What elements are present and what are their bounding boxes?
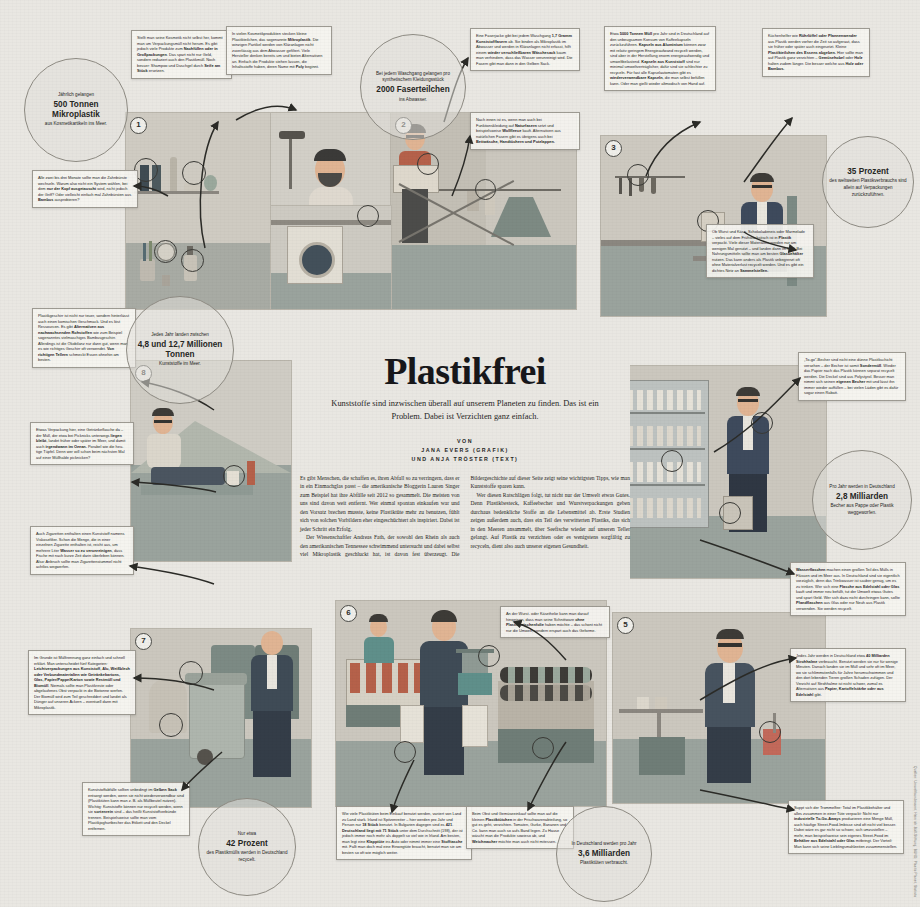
scene-panel-1: 1 xyxy=(125,112,272,310)
fruit-row-2 xyxy=(500,685,592,701)
stat-circle-meer: Jedes Jahr landen zwischen 4,8 und 12,7 … xyxy=(126,296,234,404)
stat-lead: Pro Jahr werden in Deutschland xyxy=(829,484,894,491)
hotspot-mirror[interactable] xyxy=(182,161,206,185)
callout-wurst-kaese: Ob Wurst und Käse, Schokoladeneis oder M… xyxy=(706,224,814,278)
shelf xyxy=(134,191,219,194)
hotspot-utensils[interactable] xyxy=(627,164,649,186)
callout-plastiktueten-einkauf: Wie viele Plastiktüten beim Einkauf benu… xyxy=(336,806,472,860)
picnic-glasses xyxy=(154,420,172,423)
byline: VON JANA EVERS (GRAFIK) UND ANJA TRÖSTER… xyxy=(300,437,630,465)
hotspot-fruit[interactable] xyxy=(532,737,554,759)
callout-mikroplastik-poly: In vielen Kosmetikprodukten stecken klei… xyxy=(226,26,332,75)
stat-circle-tueten: In Deutschland werden pro Jahr 3,6 Milli… xyxy=(556,806,652,902)
small-jar xyxy=(162,275,170,286)
byline-author-2: UND ANJA TRÖSTER (TEXT) xyxy=(300,455,630,464)
person-hair xyxy=(314,149,346,161)
callout-text: Stellt man seine Kosmetik nicht selbst h… xyxy=(137,35,223,73)
cup-b xyxy=(655,697,667,709)
cup-a xyxy=(637,697,649,709)
fruit-row-1 xyxy=(500,667,592,683)
picnic-torso xyxy=(147,434,181,468)
callout-ruehrloeffel: Küchenhelfer wie Rührlöffel oder Pfannen… xyxy=(762,28,870,77)
stat-value: 2,8 Milliarden xyxy=(836,492,888,502)
callout-text: Etwa 5000 Tonnen Müll pro Jahr sind in D… xyxy=(610,31,709,86)
hotspot-brush[interactable] xyxy=(154,240,177,263)
bin-wheel xyxy=(197,749,213,765)
hotspot-bin[interactable] xyxy=(719,502,741,524)
hotspot-line[interactable] xyxy=(475,179,496,200)
person3-hair xyxy=(750,173,774,182)
callout-naturfasern: Nach innen ist es, wenn man auch bei Fun… xyxy=(470,112,580,150)
infographic-page: 1 2 xyxy=(0,0,920,907)
stat-value: 3,6 Milliarden xyxy=(578,849,630,859)
hotspot-bag[interactable] xyxy=(394,741,416,763)
stat-trail: des Plastikmülls werden in Deutschland r… xyxy=(205,850,289,863)
callout-kapseln: Etwa 5000 Tonnen Müll pro Jahr sind in D… xyxy=(604,26,716,91)
callout-text: Alle zwei bis drei Monate sollte man die… xyxy=(38,175,131,202)
hotspot-picnic-cup[interactable] xyxy=(223,465,245,487)
stat-value: 42 Prozent xyxy=(226,839,267,849)
callout-text: Plastikgeschirr ist nicht nur teuer, son… xyxy=(38,313,129,362)
hotspot-shower[interactable] xyxy=(357,205,379,227)
callout-text: „To-go“-Becher sind nicht eine dünne Pla… xyxy=(804,357,898,395)
stat-circle-mikroplastik: Jährlich gelangen 500 Tonnen Mikroplasti… xyxy=(24,58,128,162)
callout-bio-becher: „To-go“-Becher sind nicht eine dünne Pla… xyxy=(798,352,906,401)
toothbrush-2 xyxy=(149,241,152,261)
shopping-bag-left xyxy=(400,705,424,743)
hotspot-straw[interactable] xyxy=(759,721,781,743)
callout-text: Ob Wurst und Käse, Schokoladeneis oder M… xyxy=(712,229,805,273)
callout-text: Küchenhelfer wie Rührlöffel oder Pfannen… xyxy=(768,33,863,71)
callout-wurst-kaesetheke: An der Wurst- oder Käsetheke kann man da… xyxy=(500,606,610,638)
picnic-legs xyxy=(151,467,225,485)
picnic-bottle xyxy=(247,461,255,485)
stat-trail: aus Kosmetikartikeln ins Meer. xyxy=(45,121,107,128)
cafe-counter xyxy=(619,709,703,713)
callout-text: Wasserflaschen machen einen großen Teil … xyxy=(796,567,900,611)
person4-hair xyxy=(736,387,760,396)
hotspot-clothes[interactable] xyxy=(417,153,439,175)
callout-strohhalme: Jedes Jahr werden in Deutschland etwa 40… xyxy=(790,648,906,702)
utensil-4 xyxy=(651,178,656,194)
callout-wasserflaschen: Wasserflaschen machen einen großen Teil … xyxy=(790,562,906,616)
stat-value: 2000 Faserteilchen xyxy=(376,85,449,95)
person7-head xyxy=(261,631,283,655)
toothbrush-1 xyxy=(143,243,146,261)
byline-author-1: JANA EVERS (GRAFIK) xyxy=(300,446,630,455)
person4-glasses xyxy=(738,399,758,402)
stat-lead: Nur etwa xyxy=(238,831,256,838)
customer-legs xyxy=(424,707,464,775)
scene-panel-4: 4 xyxy=(600,365,827,579)
stat-value: 500 Tonnen Mikroplastik xyxy=(31,100,121,120)
hotspot-soap[interactable] xyxy=(181,249,204,272)
stat-circle-verpackungen: 35 Prozent des weltweiten Plastikverbrau… xyxy=(822,136,914,228)
callout-text: Auch Zigaretten enthalten einen Kunststo… xyxy=(36,531,124,569)
bottle-c xyxy=(170,157,177,191)
hotspot-bin-lid[interactable] xyxy=(179,661,203,685)
hotspot-cup[interactable] xyxy=(751,412,773,434)
scale-stand xyxy=(458,673,492,695)
callout-text: Etwas Verpackung hier, eine Getränkeflas… xyxy=(36,427,125,460)
stat-lead: In Deutschland werden pro Jahr xyxy=(571,841,636,848)
callout-gelber-sack: Kunststoffabfälle sollten unbedingt im G… xyxy=(82,782,190,836)
stat-lead: Jährlich gelangen xyxy=(58,92,94,99)
person7-shirt xyxy=(267,655,277,689)
cabinet xyxy=(639,737,685,775)
article-paragraph: Es gibt Menschen, die schaffen es, ihren… xyxy=(300,474,460,534)
callout-text: Wie viele Plastiktüten beim Einkauf benu… xyxy=(342,811,463,855)
person5-legs xyxy=(707,727,751,783)
stat-circle-fasern: Bei jedem Waschgang gelangen pro synthet… xyxy=(360,34,466,140)
hotspot-bag[interactable] xyxy=(159,713,183,737)
callout-text: An der Wurst- oder Käsetheke kann man da… xyxy=(506,611,602,633)
scene-number-7: 7 xyxy=(135,633,152,650)
scene-number-3: 3 xyxy=(605,140,622,157)
hotspot-scale[interactable] xyxy=(478,645,500,667)
picnic-hair xyxy=(152,408,174,416)
scene-number-6: 6 xyxy=(340,605,357,622)
hotspot-bottle[interactable] xyxy=(661,450,683,472)
page-title: Plastikfrei xyxy=(300,352,630,390)
bin-main xyxy=(189,681,245,759)
stat-trail: Plastiktüten verbraucht. xyxy=(580,860,628,867)
editorial-block: Plastikfrei Kunststoffe sind inzwischen … xyxy=(300,352,630,600)
callout-text: Eine Faserjacke gibt bei jedem Waschgang… xyxy=(476,33,573,66)
callout-plastikgeschirr: Plastikgeschirr ist nicht nur teuer, son… xyxy=(32,308,136,368)
